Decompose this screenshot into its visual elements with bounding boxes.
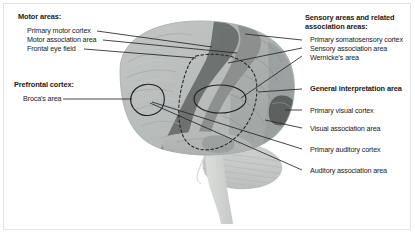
label-sensory-areas-heading-line2: association areas: xyxy=(305,23,368,30)
label-sensory-association-area: Sensory association area xyxy=(310,45,387,52)
cerebrum xyxy=(120,20,300,165)
label-wernickes-area: Wernicke's area xyxy=(310,54,359,61)
label-motor-association-area: Motor association area xyxy=(27,36,96,43)
label-frontal-eye-field: Frontal eye field xyxy=(27,45,76,52)
label-primary-somatosensory-cortex: Primary somatosensory cortex xyxy=(310,36,403,43)
label-visual-association-area: Visual association area xyxy=(310,125,380,132)
label-primary-auditory-cortex: Primary auditory cortex xyxy=(310,146,380,153)
label-motor-areas-heading: Motor areas: xyxy=(18,13,61,20)
label-brocas-area: Broca's area xyxy=(23,95,61,102)
figure-canvas: Motor areas: Primary motor cortex Motor … xyxy=(0,0,415,234)
label-auditory-association-area: Auditory association area xyxy=(310,167,387,174)
label-prefrontal-cortex-heading: Prefrontal cortex: xyxy=(14,81,74,88)
label-general-interpretation-area: General interpretation area xyxy=(310,85,402,92)
label-primary-visual-cortex: Primary visual cortex xyxy=(310,107,374,114)
label-sensory-areas-heading-line1: Sensory areas and related xyxy=(305,14,395,21)
label-primary-motor-cortex: Primary motor cortex xyxy=(27,27,91,34)
